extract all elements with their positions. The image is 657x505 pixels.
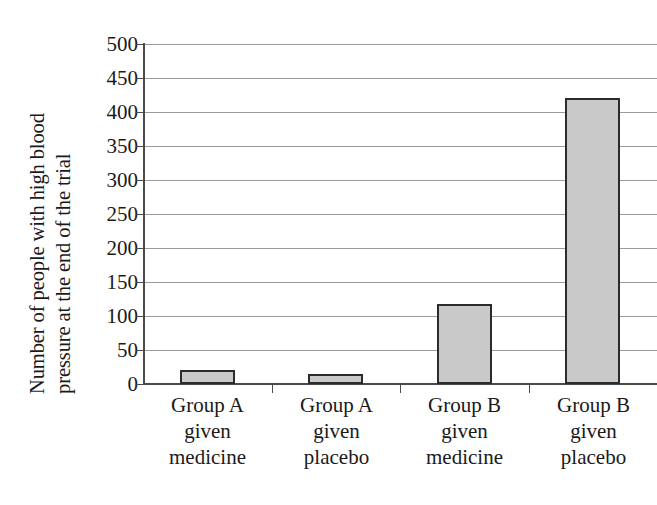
x-axis-category-label-line: medicine xyxy=(400,444,529,470)
x-axis-category-label-line: given xyxy=(529,418,657,444)
y-axis-line xyxy=(143,43,145,385)
y-axis-tick-label: 150 xyxy=(62,272,138,293)
bar xyxy=(180,370,235,384)
bar xyxy=(437,304,492,384)
y-axis-tick-label: 400 xyxy=(62,102,138,123)
x-axis-category-label-line: placebo xyxy=(529,444,657,470)
gridline xyxy=(143,44,657,45)
x-axis-category-label: Group Bgivenmedicine xyxy=(400,392,529,470)
x-axis-category-label-line: Group A xyxy=(272,392,401,418)
y-axis-tick-label: 300 xyxy=(62,170,138,191)
x-axis-category-label-line: Group B xyxy=(529,392,657,418)
x-axis-category-label-line: given xyxy=(272,418,401,444)
x-axis-category-labels: Group AgivenmedicineGroup AgivenplaceboG… xyxy=(143,392,657,502)
gridline xyxy=(143,78,657,79)
y-axis-title: Number of people with high blood pressur… xyxy=(0,0,62,400)
y-axis-tick-label: 350 xyxy=(62,136,138,157)
y-axis-tick-labels: 500450400350300250200150100500 xyxy=(62,0,138,505)
x-axis-category-label: Group Agivenmedicine xyxy=(143,392,272,470)
x-axis-category-label: Group Bgivenplacebo xyxy=(529,392,657,470)
bar xyxy=(565,98,620,384)
y-axis-tick-label: 0 xyxy=(62,374,138,395)
bar-chart: Number of people with high blood pressur… xyxy=(0,0,657,505)
y-axis-tick-label: 100 xyxy=(62,306,138,327)
y-axis-tick-label: 500 xyxy=(62,34,138,55)
y-axis-title-line-1: Number of people with high blood xyxy=(27,113,48,394)
x-axis-category-label-line: given xyxy=(400,418,529,444)
y-axis-tick-label: 450 xyxy=(62,68,138,89)
x-axis-category-label-line: Group B xyxy=(400,392,529,418)
x-axis-category-label: Group Agivenplacebo xyxy=(272,392,401,470)
y-axis-tick-label: 250 xyxy=(62,204,138,225)
x-axis-category-label-line: medicine xyxy=(143,444,272,470)
x-axis-category-label-line: given xyxy=(143,418,272,444)
bar xyxy=(308,374,363,384)
x-axis-category-label-line: placebo xyxy=(272,444,401,470)
y-axis-tick-label: 200 xyxy=(62,238,138,259)
y-axis-tick-label: 50 xyxy=(62,340,138,361)
x-axis-category-label-line: Group A xyxy=(143,392,272,418)
